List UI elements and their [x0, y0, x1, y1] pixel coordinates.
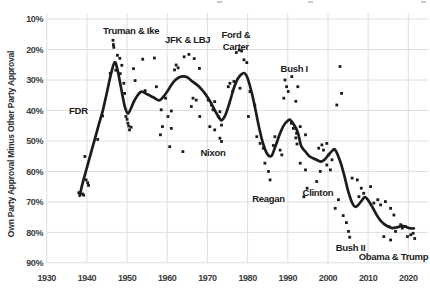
data-point	[243, 58, 246, 61]
data-point	[229, 82, 232, 85]
data-point	[247, 115, 250, 118]
data-point	[160, 108, 163, 111]
y-tick-label: 80%	[26, 228, 43, 238]
data-point	[144, 89, 147, 92]
data-point	[345, 221, 348, 224]
data-point	[382, 235, 385, 238]
data-point	[304, 169, 307, 172]
data-point	[279, 149, 282, 152]
scatter-points	[77, 39, 416, 242]
y-axis-ticks: 10%20%30%40%50%60%70%80%90%	[26, 14, 43, 268]
annotation-clinton: Clinton	[303, 187, 334, 198]
data-point	[175, 64, 178, 67]
data-point	[249, 90, 252, 93]
data-point	[284, 79, 287, 82]
x-axis-ticks: 1930194019501960197019801990200020102020	[37, 273, 417, 283]
data-point	[267, 170, 270, 173]
x-tick-label: 1950	[118, 273, 137, 283]
data-point	[315, 180, 318, 183]
data-point	[285, 85, 288, 88]
data-point	[208, 125, 211, 128]
y-tick-label: 90%	[26, 258, 43, 268]
data-point	[319, 170, 322, 173]
data-point	[296, 85, 299, 88]
data-point	[217, 115, 220, 118]
data-point	[132, 67, 135, 70]
data-point	[262, 147, 265, 150]
data-point	[294, 100, 297, 103]
data-point	[362, 192, 365, 195]
data-point	[198, 67, 201, 70]
data-point	[356, 179, 359, 182]
data-point	[290, 122, 293, 125]
data-point	[231, 90, 234, 93]
plot-area: 10%20%30%40%50%60%70%80%90%1930194019501…	[0, 0, 430, 290]
data-point	[190, 105, 193, 108]
data-point	[84, 155, 87, 158]
x-tick-label: 2000	[319, 273, 338, 283]
data-point	[126, 118, 129, 121]
annotation-truman-ike: Truman & Ike	[103, 25, 159, 36]
data-point	[372, 202, 375, 205]
data-point	[193, 57, 196, 60]
data-point	[376, 198, 379, 201]
y-axis-title: Own Party Approval Minus Other Party App…	[6, 51, 16, 237]
data-point	[192, 97, 195, 100]
data-point	[322, 149, 325, 152]
era-annotations: FDRTruman & IkeJFK & LBJFord &CarterNixo…	[69, 25, 429, 262]
data-point	[282, 97, 285, 100]
data-point	[393, 214, 396, 217]
trend-line	[80, 62, 414, 228]
data-point	[287, 90, 290, 93]
data-point	[116, 54, 119, 57]
x-tick-label: 1980	[238, 273, 257, 283]
data-point	[347, 230, 350, 233]
approval-gap-chart: 10%20%30%40%50%60%70%80%90%1930194019501…	[0, 0, 430, 290]
data-point	[321, 144, 324, 147]
data-point	[219, 137, 222, 140]
data-point	[269, 179, 272, 182]
data-point	[369, 185, 372, 188]
x-tick-label: 2020	[399, 273, 418, 283]
data-point	[335, 104, 338, 107]
data-point	[120, 64, 123, 67]
data-point	[233, 80, 236, 83]
data-point	[219, 110, 222, 113]
data-point	[404, 225, 407, 228]
annotation-fdr: FDR	[69, 105, 88, 116]
x-tick-label: 1990	[279, 273, 298, 283]
data-point	[77, 191, 80, 194]
data-point	[112, 43, 115, 46]
data-point	[348, 236, 351, 239]
data-point	[331, 158, 334, 161]
data-point	[128, 129, 131, 132]
data-point	[153, 57, 156, 60]
data-point	[112, 39, 115, 42]
data-point	[123, 92, 126, 95]
data-point	[220, 140, 223, 143]
data-point	[122, 82, 125, 85]
data-point	[325, 164, 328, 167]
data-point	[87, 184, 90, 187]
data-point	[304, 133, 307, 136]
data-point	[340, 92, 343, 95]
x-tick-label: 1930	[37, 273, 56, 283]
y-tick-label: 70%	[26, 197, 43, 207]
data-point	[119, 72, 122, 75]
data-point	[274, 135, 277, 138]
data-point	[125, 115, 128, 118]
annotation-obama-trump: Obama & Trump	[359, 251, 429, 262]
data-point	[337, 198, 340, 201]
data-point	[255, 135, 258, 138]
data-point	[329, 169, 332, 172]
data-point	[292, 127, 295, 130]
data-point	[86, 181, 89, 184]
data-point	[177, 66, 180, 69]
data-point	[334, 207, 337, 210]
data-point	[379, 204, 382, 207]
data-point	[295, 132, 298, 135]
data-point	[384, 200, 387, 203]
data-point	[317, 147, 320, 150]
data-point	[290, 75, 293, 78]
data-point	[212, 108, 215, 111]
